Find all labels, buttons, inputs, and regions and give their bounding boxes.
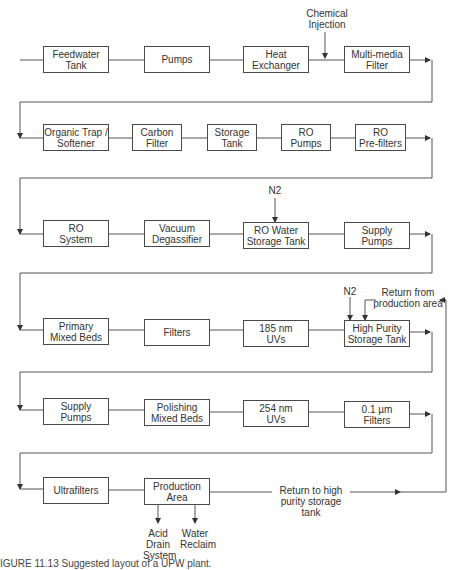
label-return-from-production: Return from production area xyxy=(372,287,444,309)
box-ultrafilters: Ultrafilters xyxy=(43,477,109,504)
box-supply-pumps-1: Supply Pumps xyxy=(344,222,410,249)
label-acid-drain-system: Acid Drain System xyxy=(143,528,173,561)
label-n2-hp: N2 xyxy=(341,286,359,297)
box-filters: Filters xyxy=(144,319,210,346)
box-production-area: Production Area xyxy=(144,478,210,505)
box-feedwater-tank: Feedwater Tank xyxy=(43,46,109,73)
box-high-purity-storage-tank: High Purity Storage Tank xyxy=(344,320,410,347)
box-primary-mixed-beds: Primary Mixed Beds xyxy=(43,318,109,345)
box-254nm-uvs: 254 nm UVs xyxy=(243,400,309,427)
box-185nm-uvs: 185 nm UVs xyxy=(243,320,309,347)
box-pumps: Pumps xyxy=(144,46,210,73)
figure-caption: IGURE 11.13 Suggested layout of a UPW pl… xyxy=(0,558,212,569)
box-carbon-filter: Carbon Filter xyxy=(132,124,182,151)
box-multimedia-filter: Multi-media Filter xyxy=(344,46,410,73)
label-water-reclaim: Water Reclaim xyxy=(180,528,210,550)
box-polishing-mixed-beds: Polishing Mixed Beds xyxy=(144,399,210,426)
box-ro-water-storage-tank: RO Water Storage Tank xyxy=(243,222,309,249)
box-ro-prefilters: RO Pre-filters xyxy=(355,124,406,151)
label-return-to-hp-tank: Return to high purity storage tank xyxy=(272,485,350,518)
box-heat-exchanger: Heat Exchanger xyxy=(243,46,309,73)
box-0-1um-filters: 0.1 µm Filters xyxy=(344,401,410,428)
box-vacuum-degassifier: Vacuum Degassifier xyxy=(144,220,210,247)
label-n2-ro: N2 xyxy=(266,185,284,196)
box-organic-trap-softener: Organic Trap / Softener xyxy=(43,124,109,151)
box-ro-pumps: RO Pumps xyxy=(281,124,331,151)
box-ro-system: RO System xyxy=(43,220,109,247)
box-supply-pumps-2: Supply Pumps xyxy=(43,398,109,425)
label-chemical-injection: Chemical Injection xyxy=(302,8,352,30)
box-storage-tank: Storage Tank xyxy=(207,124,257,151)
